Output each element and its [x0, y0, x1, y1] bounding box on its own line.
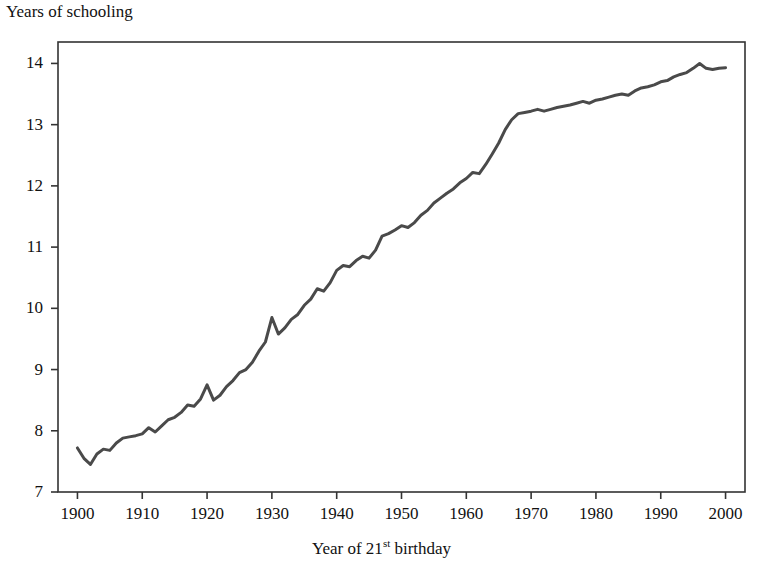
y-tick-label: 10 [9, 298, 43, 317]
chart-container: Years of schooling 7891011121314 1900191… [0, 0, 763, 573]
y-tick-label: 14 [9, 53, 43, 72]
y-tick-label: 9 [9, 360, 43, 379]
x-tick-label: 1920 [177, 504, 237, 523]
y-tick-label: 7 [9, 482, 43, 501]
x-tick-label: 1910 [112, 504, 172, 523]
data-series [77, 63, 725, 464]
axis-ticks [51, 63, 726, 499]
x-tick-label: 1990 [631, 504, 691, 523]
y-tick-label: 12 [9, 176, 43, 195]
series-line [77, 63, 725, 464]
x-axis-title: Year of 21st birthday [0, 538, 763, 560]
x-tick-label: 1940 [307, 504, 367, 523]
y-tick-label: 8 [9, 421, 43, 440]
y-tick-label: 13 [9, 115, 43, 134]
y-tick-label: 11 [9, 237, 43, 256]
x-tick-label: 1930 [242, 504, 302, 523]
plot-area [0, 0, 763, 573]
x-tick-label: 2000 [696, 504, 756, 523]
x-tick-label: 1980 [566, 504, 626, 523]
x-tick-label: 1950 [372, 504, 432, 523]
x-tick-label: 1970 [501, 504, 561, 523]
x-tick-label: 1900 [47, 504, 107, 523]
x-axis-title-after: birthday [390, 539, 451, 558]
x-axis-title-before: Year of 21 [312, 539, 383, 558]
x-tick-label: 1960 [436, 504, 496, 523]
